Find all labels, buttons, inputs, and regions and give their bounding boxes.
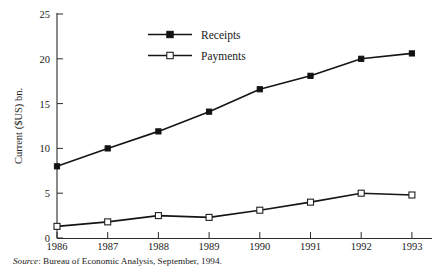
x-tick-label-1986: 1986: [47, 241, 68, 252]
chart-legend: Receipts Payments: [148, 29, 246, 63]
x-tick-label-1990: 1990: [249, 241, 270, 252]
data-point-payments-1992: [358, 190, 364, 196]
chart-page: Current ($US) bn. 0 5 10 15 20 25: [0, 0, 442, 277]
legend-label-receipts: Receipts: [201, 29, 241, 42]
data-point-payments-1986: [54, 223, 60, 229]
data-point-receipts-1988: [156, 129, 161, 134]
legend-marker-open-square: [167, 52, 173, 58]
y-tick-label-10: 10: [40, 143, 51, 154]
y-tick-label-15: 15: [40, 99, 51, 110]
x-axis-ticks: 1986 1987 1988 1989 1990 1991 1992 1993: [47, 232, 423, 252]
series-layer: [54, 51, 415, 230]
data-point-payments-1989: [206, 214, 212, 220]
y-axis-ticks: 0 5 10 15 20 25: [40, 9, 64, 244]
source-prefix: Source: [13, 256, 38, 266]
source-note: Source: Bureau of Economic Analysis, Sep…: [13, 256, 222, 266]
data-point-receipts-1993: [409, 51, 414, 56]
legend-item-receipts[interactable]: Receipts: [148, 29, 241, 42]
data-point-payments-1991: [308, 199, 314, 205]
legend-marker-filled-square: [167, 31, 173, 37]
data-point-payments-1990: [257, 207, 263, 213]
data-point-receipts-1990: [257, 87, 262, 92]
line-chart: Current ($US) bn. 0 5 10 15 20 25: [0, 0, 442, 277]
x-tick-label-1989: 1989: [199, 241, 220, 252]
y-tick-label-20: 20: [40, 54, 51, 65]
series-receipts: [54, 51, 414, 169]
data-point-payments-1993: [409, 192, 415, 198]
data-point-payments-1988: [155, 213, 161, 219]
series-payments: [54, 190, 415, 229]
x-tick-label-1993: 1993: [401, 241, 422, 252]
data-point-receipts-1992: [359, 56, 364, 61]
source-separator: :: [38, 256, 41, 266]
data-point-receipts-1991: [308, 73, 313, 78]
y-tick-label-25: 25: [40, 9, 51, 20]
x-tick-label-1992: 1992: [351, 241, 372, 252]
y-axis-title: Current ($US) bn.: [13, 88, 25, 164]
data-point-receipts-1989: [207, 109, 212, 114]
data-point-payments-1987: [105, 219, 111, 225]
legend-label-payments: Payments: [201, 50, 246, 63]
x-tick-label-1991: 1991: [300, 241, 321, 252]
y-tick-label-5: 5: [45, 188, 50, 199]
x-tick-label-1987: 1987: [97, 241, 118, 252]
data-point-receipts-1987: [105, 146, 110, 151]
data-point-receipts-1986: [54, 164, 59, 169]
source-text: Bureau of Economic Analysis, September, …: [43, 256, 222, 266]
x-tick-label-1988: 1988: [148, 241, 169, 252]
legend-item-payments[interactable]: Payments: [148, 50, 246, 63]
